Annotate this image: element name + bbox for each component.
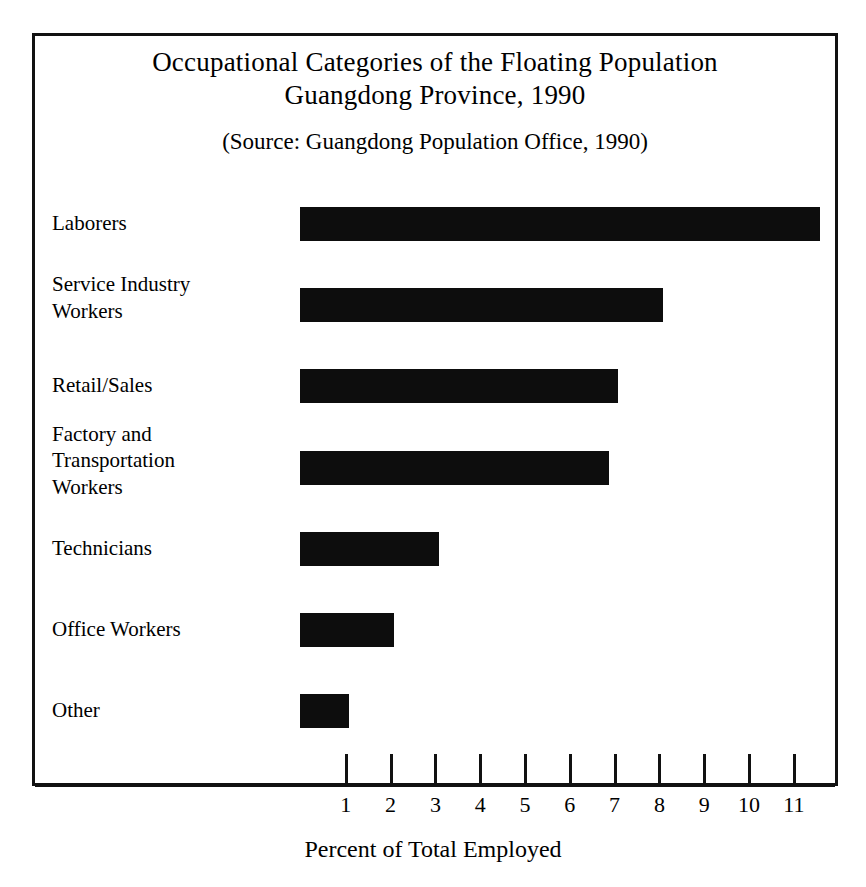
x-tick-label-2: 2 <box>371 792 411 818</box>
x-tick-8 <box>658 754 661 785</box>
x-tick-7 <box>614 754 617 785</box>
bar-office-workers <box>300 613 394 647</box>
x-tick-6 <box>569 754 572 785</box>
x-tick-2 <box>390 754 393 785</box>
category-label-service-industry-workers: Service Industry Workers <box>52 271 292 325</box>
bar-retail-sales <box>300 369 618 403</box>
x-tick-label-8: 8 <box>639 792 679 818</box>
x-tick-label-10: 10 <box>729 792 769 818</box>
x-tick-10 <box>748 754 751 785</box>
category-label-retail-sales: Retail/Sales <box>52 372 292 399</box>
bar-technicians <box>300 532 439 566</box>
bar-service-industry-workers <box>300 288 663 322</box>
bar-factory-and-transportation-workers <box>300 451 609 485</box>
category-label-laborers: Laborers <box>52 210 292 237</box>
plot-area: LaborersService Industry WorkersRetail/S… <box>0 0 866 887</box>
category-label-office-workers: Office Workers <box>52 616 292 643</box>
x-tick-label-11: 11 <box>774 792 814 818</box>
x-tick-label-5: 5 <box>505 792 545 818</box>
bar-laborers <box>300 207 820 241</box>
x-tick-11 <box>793 754 796 785</box>
x-tick-1 <box>345 754 348 785</box>
x-tick-9 <box>703 754 706 785</box>
chart-figure: Occupational Categories of the Floating … <box>0 0 866 887</box>
x-axis-title: Percent of Total Employed <box>0 836 866 863</box>
x-tick-label-1: 1 <box>326 792 366 818</box>
x-tick-label-4: 4 <box>460 792 500 818</box>
bar-other <box>300 694 349 728</box>
category-label-other: Other <box>52 697 292 724</box>
x-tick-label-3: 3 <box>415 792 455 818</box>
category-label-factory-and-transportation-workers: Factory and Transportation Workers <box>52 421 292 502</box>
x-axis-line <box>35 784 835 787</box>
x-tick-label-7: 7 <box>595 792 635 818</box>
x-tick-5 <box>524 754 527 785</box>
x-tick-label-9: 9 <box>684 792 724 818</box>
x-tick-3 <box>434 754 437 785</box>
category-label-technicians: Technicians <box>52 535 292 562</box>
x-tick-label-6: 6 <box>550 792 590 818</box>
x-tick-4 <box>479 754 482 785</box>
